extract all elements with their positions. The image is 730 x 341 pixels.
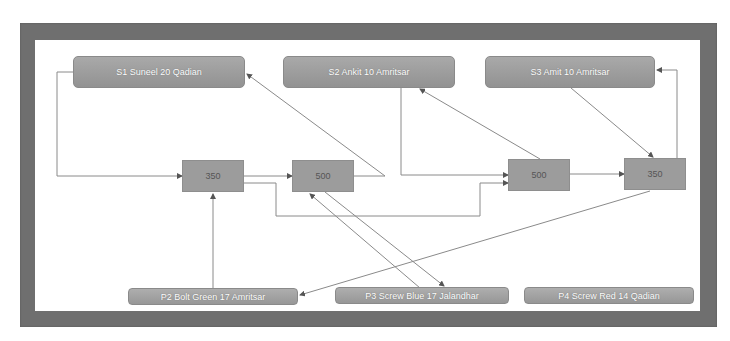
source-node-s3[interactable]: S3 Amit 10 Amritsar <box>485 56 655 88</box>
source-node-label: S2 Ankit 10 Amritsar <box>328 67 409 77</box>
product-node-label: P3 Screw Blue 17 Jalandhar <box>365 291 479 301</box>
process-node-3[interactable]: 500 <box>508 159 570 191</box>
process-node-value: 350 <box>205 171 220 181</box>
process-node-1[interactable]: 350 <box>182 160 244 192</box>
product-node-label: P4 Screw Red 14 Qadian <box>558 291 660 301</box>
process-node-value: 500 <box>531 170 546 180</box>
source-node-s2[interactable]: S2 Ankit 10 Amritsar <box>283 56 455 88</box>
process-node-value: 500 <box>315 171 330 181</box>
product-node-p3[interactable]: P3 Screw Blue 17 Jalandhar <box>335 287 509 304</box>
process-node-2[interactable]: 500 <box>292 160 354 192</box>
product-node-p2[interactable]: P2 Bolt Green 17 Amritsar <box>128 288 298 305</box>
source-node-s1[interactable]: S1 Suneel 20 Qadian <box>73 56 245 88</box>
source-node-label: S3 Amit 10 Amritsar <box>530 67 609 77</box>
product-node-label: P2 Bolt Green 17 Amritsar <box>161 292 266 302</box>
source-node-label: S1 Suneel 20 Qadian <box>116 67 202 77</box>
product-node-p4[interactable]: P4 Screw Red 14 Qadian <box>524 287 694 304</box>
process-node-value: 350 <box>647 169 662 179</box>
process-node-4[interactable]: 350 <box>624 158 686 190</box>
